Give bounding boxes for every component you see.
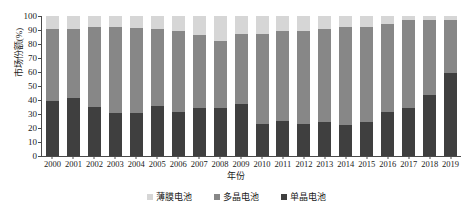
bar-segment[interactable]: [130, 28, 143, 113]
stacked-bar[interactable]: [444, 16, 457, 156]
bar-segment[interactable]: [402, 108, 415, 156]
bar-segment[interactable]: [88, 27, 101, 108]
bar-segment[interactable]: [235, 16, 248, 34]
bar-group[interactable]: [210, 16, 231, 156]
stacked-bar[interactable]: [256, 16, 269, 156]
bar-group[interactable]: [168, 16, 189, 156]
bar-segment[interactable]: [318, 122, 331, 156]
bar-segment[interactable]: [172, 112, 185, 156]
bar-group[interactable]: [335, 16, 356, 156]
stacked-bar[interactable]: [297, 16, 310, 156]
bar-segment[interactable]: [151, 106, 164, 156]
bar-segment[interactable]: [109, 113, 122, 156]
bar-group[interactable]: [231, 16, 252, 156]
bar-segment[interactable]: [339, 125, 352, 157]
bar-segment[interactable]: [193, 108, 206, 156]
bar-segment[interactable]: [339, 27, 352, 124]
stacked-bar[interactable]: [381, 16, 394, 156]
bar-segment[interactable]: [297, 124, 310, 156]
bar-segment[interactable]: [444, 73, 457, 156]
stacked-bar[interactable]: [109, 16, 122, 156]
stacked-bar[interactable]: [339, 16, 352, 156]
stacked-bar[interactable]: [402, 16, 415, 156]
bar-segment[interactable]: [297, 31, 310, 124]
bar-segment[interactable]: [193, 16, 206, 35]
bar-segment[interactable]: [381, 112, 394, 156]
bar-segment[interactable]: [67, 98, 80, 156]
bar-segment[interactable]: [276, 121, 289, 156]
bar-group[interactable]: [293, 16, 314, 156]
bar-segment[interactable]: [88, 16, 101, 27]
bar-segment[interactable]: [402, 20, 415, 108]
bar-segment[interactable]: [276, 31, 289, 121]
stacked-bar[interactable]: [423, 16, 436, 156]
stacked-bar[interactable]: [88, 16, 101, 156]
bar-segment[interactable]: [172, 16, 185, 31]
bar-segment[interactable]: [256, 34, 269, 124]
bar-segment[interactable]: [256, 124, 269, 156]
legend-item[interactable]: 薄膜电池: [147, 192, 192, 202]
stacked-bar[interactable]: [318, 16, 331, 156]
stacked-bar[interactable]: [214, 16, 227, 156]
stacked-bar[interactable]: [276, 16, 289, 156]
bar-group[interactable]: [147, 16, 168, 156]
bar-segment[interactable]: [214, 16, 227, 41]
bar-segment[interactable]: [235, 34, 248, 104]
bar-segment[interactable]: [67, 16, 80, 29]
bar-group[interactable]: [398, 16, 419, 156]
bar-segment[interactable]: [381, 24, 394, 112]
bar-segment[interactable]: [46, 101, 59, 156]
bar-segment[interactable]: [151, 29, 164, 106]
bar-segment[interactable]: [360, 16, 373, 27]
legend-item[interactable]: 单晶电池: [281, 192, 326, 202]
bar-group[interactable]: [252, 16, 273, 156]
bar-group[interactable]: [377, 16, 398, 156]
bar-segment[interactable]: [360, 122, 373, 156]
bar-group[interactable]: [84, 16, 105, 156]
bar-segment[interactable]: [235, 104, 248, 156]
bar-segment[interactable]: [193, 35, 206, 109]
stacked-bar[interactable]: [67, 16, 80, 156]
bar-segment[interactable]: [444, 20, 457, 73]
bar-segment[interactable]: [423, 20, 436, 95]
bar-group[interactable]: [42, 16, 63, 156]
bar-segment[interactable]: [172, 31, 185, 112]
bar-segment[interactable]: [256, 16, 269, 34]
bar-group[interactable]: [440, 16, 461, 156]
stacked-bar[interactable]: [172, 16, 185, 156]
stacked-bar[interactable]: [360, 16, 373, 156]
bar-segment[interactable]: [297, 16, 310, 31]
legend-item[interactable]: 多晶电池: [214, 192, 259, 202]
bar-segment[interactable]: [318, 16, 331, 29]
bar-segment[interactable]: [339, 16, 352, 27]
bar-segment[interactable]: [109, 16, 122, 27]
bar-segment[interactable]: [130, 113, 143, 156]
bar-segment[interactable]: [423, 95, 436, 156]
bar-group[interactable]: [356, 16, 377, 156]
bar-segment[interactable]: [360, 27, 373, 122]
bar-segment[interactable]: [381, 16, 394, 24]
bar-group[interactable]: [105, 16, 126, 156]
bar-segment[interactable]: [130, 16, 143, 28]
bar-group[interactable]: [126, 16, 147, 156]
stacked-bar[interactable]: [151, 16, 164, 156]
stacked-bar[interactable]: [193, 16, 206, 156]
bar-segment[interactable]: [318, 29, 331, 121]
bar-segment[interactable]: [276, 16, 289, 31]
bar-group[interactable]: [63, 16, 84, 156]
bar-segment[interactable]: [46, 29, 59, 100]
bar-segment[interactable]: [214, 108, 227, 156]
bar-segment[interactable]: [214, 41, 227, 109]
bar-segment[interactable]: [67, 29, 80, 98]
bar-segment[interactable]: [151, 16, 164, 29]
stacked-bar[interactable]: [46, 16, 59, 156]
bar-group[interactable]: [272, 16, 293, 156]
bar-group[interactable]: [189, 16, 210, 156]
stacked-bar[interactable]: [130, 16, 143, 156]
bar-segment[interactable]: [46, 16, 59, 29]
bar-group[interactable]: [419, 16, 440, 156]
stacked-bar[interactable]: [235, 16, 248, 156]
bar-group[interactable]: [314, 16, 335, 156]
bar-segment[interactable]: [109, 27, 122, 114]
bar-segment[interactable]: [88, 107, 101, 156]
